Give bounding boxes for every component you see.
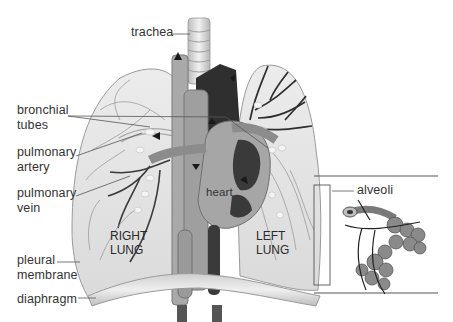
alveoli-cluster <box>343 200 426 294</box>
label-heart: heart <box>206 185 233 200</box>
label-pleural-membrane: pleural membrane <box>17 253 78 283</box>
exit-vessels <box>177 305 222 322</box>
label-alveoli: alveoli <box>357 183 393 198</box>
right-lung <box>72 69 180 300</box>
respiratory-diagram: trachea bronchial tubes pulmonary artery… <box>0 0 453 322</box>
label-left-lung: LEFT LUNG <box>256 229 289 257</box>
label-pulmonary-artery: pulmonary artery <box>17 145 76 175</box>
label-trachea: trachea <box>131 25 173 40</box>
label-bronchial-tubes: bronchial tubes <box>17 103 69 133</box>
label-pulmonary-vein: pulmonary vein <box>17 186 76 216</box>
label-diaphragm: diaphragm <box>17 292 77 307</box>
label-right-lung: RIGHT LUNG <box>110 229 147 257</box>
